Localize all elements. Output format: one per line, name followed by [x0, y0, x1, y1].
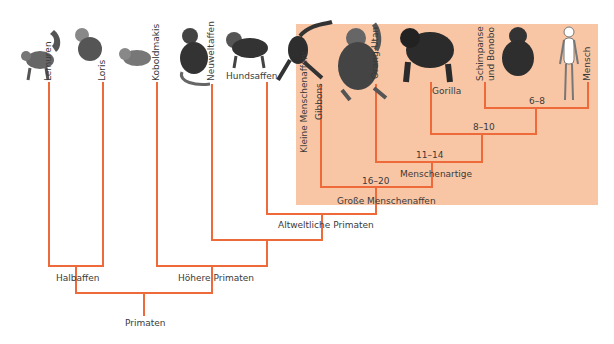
node-label-16-20: 16–20: [362, 176, 389, 186]
node-label-6-8: 6–8: [529, 96, 545, 106]
tarsier-icon: [117, 46, 155, 72]
taxon-label-koboldmakis: Koboldmakis: [151, 24, 161, 81]
taxon-label-hundsaffen: Hundsaffen: [226, 71, 278, 81]
taxon-label-gorilla: Gorilla: [432, 86, 461, 96]
node-label-primaten: Primaten: [125, 318, 166, 328]
taxon-label-mensch: Mensch: [582, 47, 592, 81]
chimpanzee-icon: [498, 24, 538, 80]
node-label-altweltliche-primaten: Altweltliche Primaten: [278, 220, 374, 230]
orangutan-icon: [330, 18, 396, 102]
node-label-menschenartige: Menschenartige: [400, 169, 472, 179]
taxon-label-schimpanse: Schimpanse: [475, 26, 485, 81]
node-label-halbaffen: Halbaffen: [56, 273, 99, 283]
gorilla-icon: [398, 22, 458, 84]
taxon-label-neuweltaffen: Neuweltaffen: [206, 21, 216, 81]
taxon-label-gibbons: Gibbons: [314, 83, 324, 120]
node-label-8-10: 8–10: [473, 122, 495, 132]
taxon-label-bonobo: und Bonobo: [486, 27, 496, 81]
node-label-hoehere-primaten: Höhere Primaten: [178, 273, 254, 283]
taxon-label-orang-utan: Orang-Utan: [370, 27, 380, 79]
lemur-icon: [16, 26, 62, 82]
taxon-label-lemuren: Lemuren: [43, 41, 53, 81]
taxon-label-loris: Loris: [97, 60, 107, 81]
halbaffen-branch: [49, 82, 103, 266]
human-icon: [556, 24, 582, 104]
node-label-grosse-menschenaffen: Große Menschenaffen: [337, 196, 436, 206]
node-label-11-14: 11–14: [416, 150, 443, 160]
group-label-kleine-menschenaffen: Kleine Menschenaffen:: [299, 51, 309, 153]
